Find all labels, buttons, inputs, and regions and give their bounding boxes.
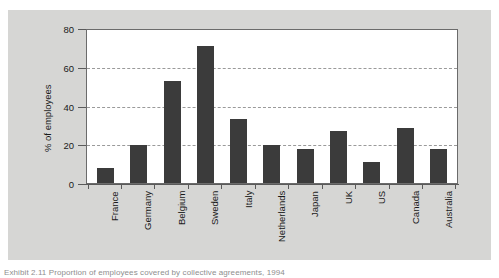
y-tick-20: 20 xyxy=(78,145,86,146)
x-tick xyxy=(355,184,356,189)
bar-australia[interactable] xyxy=(430,149,447,183)
bar-netherlands[interactable] xyxy=(263,145,280,183)
x-tick-slot xyxy=(356,184,389,189)
bar-sweden[interactable] xyxy=(197,46,214,183)
x-label-slot: Belgium xyxy=(155,191,188,257)
x-tick xyxy=(121,184,122,189)
x-tick xyxy=(154,184,155,189)
y-tick-40: 40 xyxy=(78,107,86,108)
bar-slot xyxy=(388,30,421,183)
bar-slot xyxy=(289,30,322,183)
x-tick xyxy=(455,184,456,189)
x-tick-slot xyxy=(322,184,355,189)
bar-slot xyxy=(156,30,189,183)
x-tick-slot xyxy=(222,184,255,189)
bar-canada[interactable] xyxy=(397,128,414,183)
x-axis-label-sweden: Sweden xyxy=(209,191,220,225)
y-tick-80: 80 xyxy=(78,29,86,30)
x-tick-slot xyxy=(121,184,154,189)
y-tick-0: 0 xyxy=(78,184,86,185)
x-label-slot: US xyxy=(356,191,389,257)
x-tick xyxy=(221,184,222,189)
x-tick-slot xyxy=(423,184,456,189)
x-axis-label-us: US xyxy=(376,191,387,204)
bar-slot xyxy=(122,30,155,183)
y-axis-title: % of employees xyxy=(42,139,53,152)
x-tick xyxy=(288,184,289,189)
y-tick-label-20: 20 xyxy=(63,139,78,152)
bar-italy[interactable] xyxy=(230,119,247,183)
bar-slot xyxy=(422,30,455,183)
x-label-slot: UK xyxy=(322,191,355,257)
x-label-slot: Sweden xyxy=(188,191,221,257)
y-tick-label-0: 0 xyxy=(69,178,78,191)
x-tick-slot xyxy=(389,184,422,189)
x-tick-slot xyxy=(289,184,322,189)
x-axis-label-italy: Italy xyxy=(243,191,254,208)
x-tick-slot xyxy=(188,184,221,189)
x-tick xyxy=(88,184,89,189)
x-label-slot: Japan xyxy=(289,191,322,257)
x-axis-label-belgium: Belgium xyxy=(176,191,187,225)
y-tick-label-80: 80 xyxy=(63,23,78,36)
figure-caption: Exhibit 2.11 Proportion of employees cov… xyxy=(4,267,434,278)
x-axis-label-germany: Germany xyxy=(142,191,153,230)
x-tick xyxy=(422,184,423,189)
bar-us[interactable] xyxy=(363,162,380,183)
x-axis-label-uk: UK xyxy=(343,191,354,204)
plot-area xyxy=(86,29,458,184)
x-tick xyxy=(255,184,256,189)
bar-series xyxy=(87,30,457,183)
x-tick-slot xyxy=(155,184,188,189)
bar-uk[interactable] xyxy=(330,131,347,183)
x-tick xyxy=(389,184,390,189)
x-label-slot: Australia xyxy=(423,191,456,257)
x-axis-label-netherlands: Netherlands xyxy=(276,191,287,242)
bar-belgium[interactable] xyxy=(164,81,181,183)
bar-slot xyxy=(322,30,355,183)
bar-slot xyxy=(89,30,122,183)
bar-slot xyxy=(189,30,222,183)
x-axis-label-canada: Canada xyxy=(410,191,421,224)
x-label-slot: Canada xyxy=(389,191,422,257)
x-label-slot: France xyxy=(88,191,121,257)
x-axis-labels: FranceGermanyBelgiumSwedenItalyNetherlan… xyxy=(86,191,458,257)
x-tick-slot xyxy=(255,184,288,189)
bar-slot xyxy=(355,30,388,183)
x-axis-label-japan: Japan xyxy=(309,191,320,217)
x-label-slot: Germany xyxy=(121,191,154,257)
bar-slot xyxy=(222,30,255,183)
y-tick-label-60: 60 xyxy=(63,62,78,75)
x-axis-label-france: France xyxy=(109,191,120,221)
x-axis-ticks xyxy=(86,184,458,189)
chart-panel: % of employees 020406080 FranceGermanyBe… xyxy=(8,10,491,260)
x-tick-slot xyxy=(88,184,121,189)
bar-france[interactable] xyxy=(97,168,114,184)
x-axis-label-australia: Australia xyxy=(443,191,454,228)
bar-japan[interactable] xyxy=(297,149,314,183)
bar-slot xyxy=(255,30,288,183)
y-tick-label-40: 40 xyxy=(63,101,78,114)
x-label-slot: Netherlands xyxy=(255,191,288,257)
x-label-slot: Italy xyxy=(222,191,255,257)
bar-germany[interactable] xyxy=(130,145,147,183)
x-tick xyxy=(322,184,323,189)
y-tick-60: 60 xyxy=(78,68,86,69)
x-tick xyxy=(188,184,189,189)
